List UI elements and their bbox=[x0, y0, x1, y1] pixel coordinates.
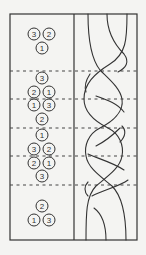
strand-number: 2 bbox=[40, 202, 45, 211]
strand-number: 1 bbox=[32, 101, 37, 110]
strand-number: 3 bbox=[47, 216, 52, 225]
state-group-8: 21 bbox=[28, 157, 55, 169]
strand-number: 3 bbox=[40, 172, 45, 181]
strand-segment bbox=[107, 14, 127, 72]
strand-number: 2 bbox=[32, 159, 37, 168]
state-group-1: 321 bbox=[28, 28, 55, 54]
state-group-3: 21 bbox=[28, 86, 55, 98]
state-group-7: 32 bbox=[28, 143, 55, 155]
strand-number: 3 bbox=[32, 145, 37, 154]
strand-number: 1 bbox=[32, 216, 37, 225]
strand-number: 2 bbox=[40, 115, 45, 124]
strand-number: 1 bbox=[40, 131, 45, 140]
strand-number: 2 bbox=[47, 30, 52, 39]
strand-segment bbox=[88, 154, 124, 170]
state-group-2: 3 bbox=[36, 72, 48, 84]
strand-number: 3 bbox=[40, 74, 45, 83]
state-group-6: 1 bbox=[36, 129, 48, 141]
state-group-4: 13 bbox=[28, 99, 55, 111]
braid-strands bbox=[84, 14, 128, 240]
strand-number: 2 bbox=[32, 88, 37, 97]
strand-number: 3 bbox=[47, 101, 52, 110]
strand-segment bbox=[92, 180, 128, 196]
strand-segment bbox=[85, 182, 88, 196]
strand-position-states: 321321132132213213 bbox=[28, 28, 55, 226]
state-group-5: 2 bbox=[36, 113, 48, 125]
state-group-9: 3 bbox=[36, 170, 48, 182]
strand-segment bbox=[96, 128, 120, 146]
braid-diagram: 321321132132213213 bbox=[0, 0, 146, 255]
strand-segment bbox=[94, 208, 106, 240]
strand-number: 1 bbox=[47, 88, 52, 97]
strand-segment bbox=[96, 96, 124, 112]
strand-number: 2 bbox=[47, 145, 52, 154]
strand-number: 3 bbox=[32, 30, 37, 39]
state-group-10: 213 bbox=[28, 200, 55, 226]
strand-number: 1 bbox=[40, 44, 45, 53]
strand-number: 1 bbox=[47, 159, 52, 168]
